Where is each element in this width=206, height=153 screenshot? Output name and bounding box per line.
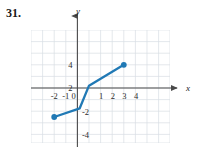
- y-tick-label: -4: [82, 130, 90, 140]
- x-axis-tick-labels: -2 -1 0 1 2 3 4: [51, 91, 139, 101]
- chart-axes: [31, 16, 177, 147]
- x-tick-label: 2: [111, 91, 115, 101]
- left-endpoint-dot: [51, 114, 57, 120]
- x-tick-label: 1: [99, 91, 103, 101]
- coordinate-plane-figure: x y -2 -1 0 1 2 3 4 4 2 -2 -4: [0, 0, 206, 153]
- right-endpoint-dot: [121, 62, 127, 68]
- chart-gridlines: [31, 30, 170, 143]
- x-tick-label: 4: [134, 91, 139, 101]
- figure-page: 31.: [0, 0, 206, 153]
- x-tick-label: -2: [51, 91, 58, 101]
- y-tick-label: 4: [68, 60, 73, 70]
- x-axis-label: x: [185, 83, 190, 93]
- y-axis-label: y: [75, 6, 80, 16]
- y-tick-label: -2: [82, 107, 89, 117]
- y-tick-label: 2: [68, 83, 72, 93]
- x-tick-label: 3: [122, 91, 126, 101]
